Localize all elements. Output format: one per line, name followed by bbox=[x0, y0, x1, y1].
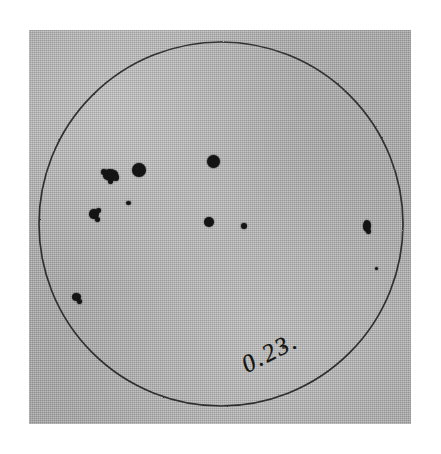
sunspot-mark-lobe bbox=[96, 208, 101, 213]
sunspot-mark-lobe bbox=[77, 299, 82, 304]
sunspot-mark-lobe bbox=[366, 229, 371, 234]
sunspot-mark bbox=[132, 163, 146, 177]
sunspot-mark bbox=[241, 223, 247, 229]
sunspot-mark bbox=[204, 217, 214, 227]
photographed-paper: 0.23. bbox=[29, 30, 411, 424]
solar-disk-outline bbox=[39, 42, 403, 406]
sunspot-mark bbox=[126, 201, 131, 205]
sunspot-mark bbox=[207, 155, 220, 168]
scanned-page: 0.23. bbox=[0, 0, 441, 454]
sunspot-mark-lobe bbox=[95, 217, 100, 222]
sunspot-mark bbox=[375, 267, 378, 270]
sunspot-mark-lobe bbox=[113, 174, 119, 181]
solar-disk-drawing bbox=[29, 30, 411, 424]
ink-fleck bbox=[282, 346, 285, 349]
sunspot-mark-lobe bbox=[108, 179, 113, 184]
sunspot-mark-lobe bbox=[101, 169, 107, 175]
